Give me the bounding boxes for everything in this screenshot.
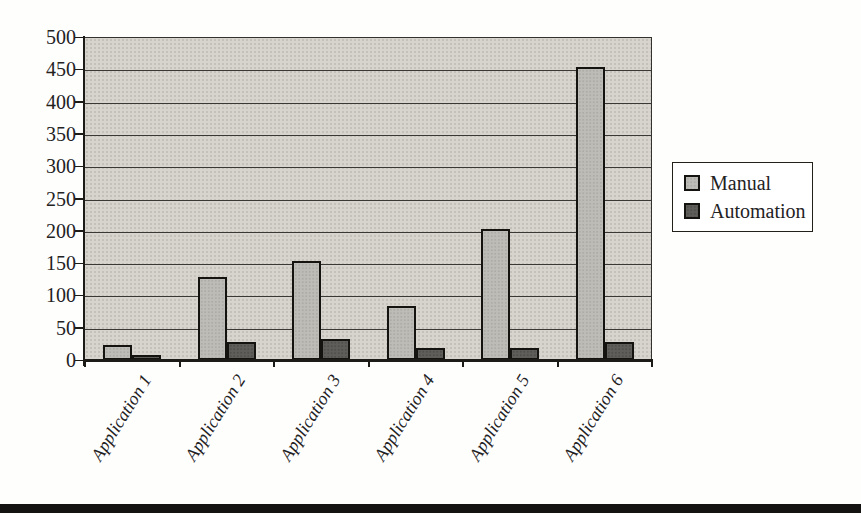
y-tick-label-200: 200 <box>10 221 76 241</box>
bar-manual-application-4 <box>387 306 416 360</box>
y-tick-label-300: 300 <box>10 156 76 176</box>
y-tick-mark-200 <box>75 230 83 232</box>
bar-manual-application-2 <box>198 277 227 360</box>
bar-manual-application-1 <box>103 345 132 360</box>
y-tick-mark-0 <box>75 360 83 362</box>
y-tick-label-350: 350 <box>10 124 76 144</box>
y-tick-mark-300 <box>75 166 83 168</box>
y-tick-label-0: 0 <box>10 350 76 370</box>
y-tick-mark-250 <box>75 198 83 200</box>
y-axis-line <box>83 36 85 366</box>
y-tick-mark-350 <box>75 133 83 135</box>
y-tick-mark-400 <box>75 101 83 103</box>
y-tick-mark-450 <box>75 69 83 71</box>
bar-manual-application-3 <box>292 261 321 360</box>
page-bottom-rule <box>0 504 861 513</box>
x-tick-mark-3 <box>368 361 370 367</box>
gridline-100 <box>85 296 651 297</box>
y-tick-label-250: 250 <box>10 189 76 209</box>
y-tick-label-400: 400 <box>10 92 76 112</box>
y-tick-mark-500 <box>75 37 83 39</box>
x-category-label-1: Application 1 <box>87 371 156 465</box>
gridline-200 <box>85 232 651 233</box>
x-tick-mark-5 <box>557 361 559 367</box>
legend: Manual Automation <box>672 162 813 232</box>
y-tick-label-150: 150 <box>10 253 76 273</box>
legend-item-manual: Manual <box>684 173 804 193</box>
bar-automation-application-3 <box>321 339 350 360</box>
gridline-300 <box>85 167 651 168</box>
y-tick-label-100: 100 <box>10 285 76 305</box>
y-tick-label-50: 50 <box>10 318 76 338</box>
x-category-label-3: Application 3 <box>276 371 345 465</box>
y-tick-mark-100 <box>75 295 83 297</box>
x-tick-mark-1 <box>179 361 181 367</box>
gridline-50 <box>85 329 651 330</box>
legend-swatch-manual-icon <box>684 175 700 191</box>
gridline-450 <box>85 70 651 71</box>
bar-manual-application-6 <box>576 67 605 360</box>
x-category-label-6: Application 6 <box>559 371 628 465</box>
legend-item-automation: Automation <box>684 201 804 221</box>
bar-automation-application-2 <box>227 342 256 360</box>
x-tick-mark-2 <box>273 361 275 367</box>
x-tick-mark-6 <box>651 361 653 367</box>
gridline-400 <box>85 103 651 104</box>
legend-label-manual: Manual <box>710 173 771 193</box>
y-tick-label-500: 500 <box>10 27 76 47</box>
x-category-label-2: Application 2 <box>181 371 250 465</box>
y-tick-mark-50 <box>75 327 83 329</box>
x-tick-mark-4 <box>462 361 464 367</box>
bar-automation-application-6 <box>605 342 634 360</box>
y-tick-mark-150 <box>75 263 83 265</box>
gridline-350 <box>85 135 651 136</box>
gridline-250 <box>85 200 651 201</box>
plot-area <box>85 37 652 360</box>
y-tick-label-450: 450 <box>10 59 76 79</box>
x-category-label-5: Application 5 <box>465 371 534 465</box>
legend-swatch-automation-icon <box>684 203 700 219</box>
x-category-label-4: Application 4 <box>370 371 439 465</box>
gridline-150 <box>85 264 651 265</box>
scanned-page: Manual Automation 0501001502002503003504… <box>0 0 861 514</box>
bar-manual-application-5 <box>481 229 510 360</box>
x-tick-mark-0 <box>84 361 86 367</box>
legend-label-automation: Automation <box>710 201 806 221</box>
